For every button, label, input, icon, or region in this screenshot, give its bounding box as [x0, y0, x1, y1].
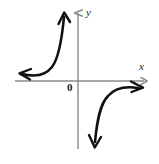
graph-figure: y x 0 — [0, 0, 159, 164]
curve-branch-lower-right — [89, 82, 143, 148]
curve-branch-lower-right-stroke — [95, 87, 138, 142]
graph-canvas — [0, 0, 159, 164]
x-axis-label: x — [139, 61, 144, 72]
y-axis-label: y — [86, 7, 91, 18]
curve-branch-upper-left-stroke — [22, 17, 64, 76]
curve-branch-upper-left — [20, 13, 71, 80]
origin-label: 0 — [67, 82, 73, 93]
